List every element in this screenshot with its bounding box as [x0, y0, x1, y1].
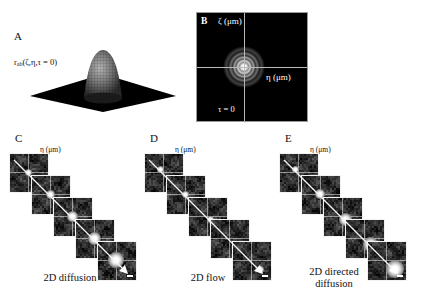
panel-d: D η (μm) ζ (μm) 2D flow — [145, 132, 295, 302]
panel-b: B ζ (μm) η (μm) τ = 0 — [196, 12, 308, 122]
panel-b-x-axis-label: η (μm) — [266, 72, 291, 82]
correlation-blob — [292, 166, 299, 173]
scale-bar — [262, 275, 268, 277]
panel-e: E η (μm) ζ (μm) 2D directed diffusion — [280, 132, 430, 302]
scale-bar — [127, 275, 133, 277]
scientific-figure: A rab(ζ,η,τ = 0) — [0, 0, 441, 304]
frame-vertical-axis — [229, 220, 230, 258]
correlation-blob — [25, 169, 32, 176]
frame-vertical-axis — [251, 242, 252, 280]
panel-c-x-axis-label: η (μm) — [40, 145, 61, 154]
scale-bar — [397, 275, 403, 277]
panel-b-letter: B — [201, 16, 207, 26]
correlation-frame — [98, 242, 136, 280]
correlation-frame — [368, 242, 406, 280]
correlation-blob — [257, 266, 264, 273]
correlation-blob — [182, 191, 189, 198]
frame-horizontal-axis — [211, 238, 249, 239]
correlation-blob — [108, 252, 124, 268]
panel-c-letter: C — [15, 132, 23, 144]
panel-a: A rab(ζ,η,τ = 0) — [0, 0, 190, 128]
panel-b-horizontal-axis — [196, 67, 308, 68]
frame-horizontal-axis — [280, 172, 318, 173]
correlation-blob — [157, 166, 164, 173]
panel-a-letter: A — [14, 30, 22, 42]
panel-b-tau-label: τ = 0 — [218, 104, 235, 114]
panel-e-x-axis-label: η (μm) — [310, 145, 331, 154]
frame-vertical-axis — [298, 154, 299, 192]
panel-d-x-axis-label: η (μm) — [175, 145, 196, 154]
frame-horizontal-axis — [233, 260, 271, 261]
frame-horizontal-axis — [145, 172, 183, 173]
panel-e-letter: E — [285, 132, 292, 144]
panel-a-surface-plot — [28, 48, 178, 114]
panel-d-letter: D — [150, 132, 158, 144]
correlation-frame — [233, 242, 271, 280]
panel-b-y-axis-label: ζ (μm) — [218, 16, 242, 26]
frame-vertical-axis — [163, 154, 164, 192]
panel-c: C η (μm) ζ (μm) 2D diffusion — [10, 132, 160, 302]
